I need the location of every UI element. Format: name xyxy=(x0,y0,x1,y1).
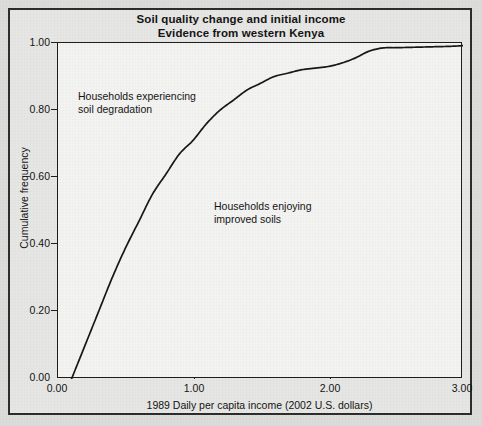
figure-canvas: Soil quality change and initial income E… xyxy=(0,0,482,426)
x-tick-label: 1.00 xyxy=(164,382,224,394)
y-tick-label: 0.20 xyxy=(4,304,50,316)
annotation-soil-degradation: Households experiencing soil degradation xyxy=(78,90,196,116)
chart-title-line-1: Soil quality change and initial income xyxy=(137,13,346,25)
y-tick-label: 1.00 xyxy=(4,36,50,48)
x-tick-label: 2.00 xyxy=(300,382,360,394)
x-tick-label: 3.00 xyxy=(432,382,482,394)
chart-title-line-2: Evidence from western Kenya xyxy=(0,26,482,40)
chart-title: Soil quality change and initial income E… xyxy=(0,12,482,40)
x-axis-label: 1989 Daily per capita income (2002 U.S. … xyxy=(57,399,462,411)
x-tick-label: 0.00 xyxy=(27,382,87,394)
annotation-improved-soils: Households enjoying improved soils xyxy=(214,200,311,226)
y-axis-label: Cumulative frequency xyxy=(18,108,30,288)
